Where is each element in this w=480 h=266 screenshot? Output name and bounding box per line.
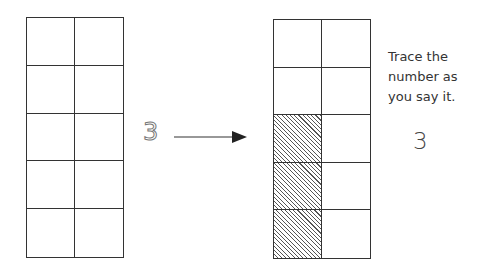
frame-cell (27, 114, 75, 162)
frame-cell (27, 161, 75, 209)
instruction-line: you say it. (388, 87, 478, 107)
frame-cell (75, 66, 123, 114)
arrow-right-icon (174, 130, 248, 144)
frame-cell (274, 68, 322, 116)
instruction-line: number as (388, 67, 478, 87)
frame-cell (27, 209, 75, 257)
frame-cell (322, 68, 370, 116)
left-ten-frame (26, 17, 124, 258)
frame-cell (322, 115, 370, 163)
frame-cell (75, 161, 123, 209)
trace-number[interactable]: 3 (143, 120, 158, 144)
frame-cell (27, 66, 75, 114)
frame-cell (75, 18, 123, 66)
instruction-line: Trace the (388, 47, 478, 67)
example-number: 3 (413, 128, 428, 154)
frame-cell (322, 163, 370, 211)
frame-cell (322, 20, 370, 68)
shaded-cell (274, 210, 322, 258)
shaded-cell (274, 115, 322, 163)
frame-cell (75, 209, 123, 257)
frame-cell (27, 18, 75, 66)
right-ten-frame (273, 19, 371, 259)
shaded-cell (274, 163, 322, 211)
frame-cell (322, 210, 370, 258)
instruction-text: Trace the number as you say it. (388, 47, 478, 107)
frame-cell (274, 20, 322, 68)
frame-cell (75, 114, 123, 162)
